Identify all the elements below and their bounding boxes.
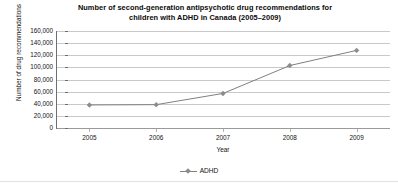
chart-title-line-1: Number of second-generation antipsychoti… [78,3,332,12]
line-chart: Number of second-generation antipsychoti… [0,0,398,185]
y-axis-tick-mark [65,128,68,129]
chart-legend: ADHD [0,167,398,175]
data-point-marker [87,102,92,107]
y-axis-tick-label: 40,000 [13,101,53,107]
y-axis-tick-label: 60,000 [13,89,53,95]
y-axis-tick-label: 0 [13,125,53,131]
x-axis-tick-label: 2009 [337,134,377,141]
legend-item-label: ADHD [200,167,219,175]
data-series-adhd [56,31,390,128]
y-axis-tick-label: 160,000 [13,28,53,34]
data-point-marker [287,63,292,68]
y-axis-tick-label: 80,000 [13,77,53,83]
x-axis-tick-mark [89,129,90,132]
data-point-marker [220,91,225,96]
y-axis-tick-label: 120,000 [13,52,53,58]
x-axis-tick-mark [156,129,157,132]
y-axis-tick-labels: 020,00040,00060,00080,000100,000120,0001… [12,31,53,128]
x-axis-tick-mark [223,129,224,132]
x-axis-tick-mark [290,129,291,132]
y-axis-tick-label: 20,000 [13,113,53,119]
series-line [89,50,356,105]
x-axis-tick-label: 2006 [136,134,176,141]
data-point-marker [154,102,159,107]
x-axis-tick-label: 2008 [270,134,310,141]
chart-title: Number of second-generation antipsychoti… [40,3,370,22]
y-axis-tick-label: 100,000 [13,64,53,70]
x-axis-tick-label: 2005 [69,134,109,141]
data-point-marker [354,48,359,53]
y-axis-tick-label: 140,000 [13,40,53,46]
x-axis-tick-mark [357,129,358,132]
x-axis-tick-label: 2007 [203,134,243,141]
bottom-divider [0,181,398,182]
chart-title-line-2: children with ADHD in Canada (2005–2009) [129,13,281,22]
x-axis-title: Year [56,146,390,153]
legend-marker-icon [180,167,197,175]
